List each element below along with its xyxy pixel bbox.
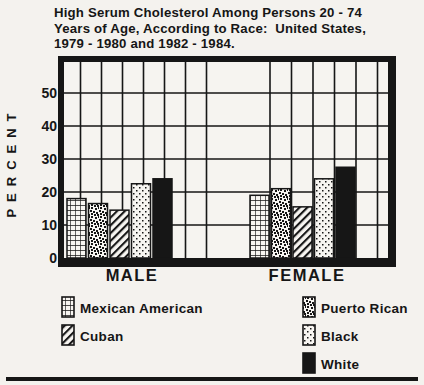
- bar-male-mexican-american: [67, 199, 86, 258]
- y-tick-label-0: 0: [49, 250, 57, 266]
- legend-label: Mexican American: [80, 301, 203, 316]
- legend-swatch-diagonal-icon: [62, 325, 74, 345]
- bar-female-white: [336, 167, 355, 258]
- bar-female-black: [315, 179, 334, 258]
- bar-male-puerto-rican: [89, 204, 108, 258]
- category-label-male: MALE: [106, 266, 159, 284]
- bar-male-black: [132, 184, 151, 258]
- y-tick-label-50: 50: [41, 85, 57, 101]
- bar-chart: 01020304050 PERCENT MALEFEMALE Mexican A…: [0, 0, 424, 385]
- frame-left: [58, 56, 64, 267]
- bar-female-cuban: [293, 207, 312, 258]
- y-axis-title: PERCENT: [4, 106, 19, 217]
- y-axis-ticks: 01020304050: [41, 85, 57, 266]
- y-tick-label-10: 10: [41, 217, 57, 233]
- legend-swatch-speckle-icon: [303, 297, 315, 317]
- y-tick-label-30: 30: [41, 151, 57, 167]
- legend-swatch-dots-icon: [303, 325, 315, 345]
- legend-item-puerto-rican: Puerto Rican: [303, 297, 408, 317]
- legend-label: Puerto Rican: [321, 301, 408, 316]
- y-tick-label-40: 40: [41, 118, 57, 134]
- legend-label: Black: [321, 329, 359, 344]
- legend-label: White: [321, 357, 359, 372]
- legend-swatch-solid-icon: [303, 353, 315, 373]
- bar-female-mexican-american: [250, 195, 269, 258]
- x-axis-category-labels: MALEFEMALE: [106, 266, 346, 284]
- bottom-rule: [6, 377, 418, 381]
- bar-female-puerto-rican: [272, 189, 291, 258]
- legend-item-white: White: [303, 353, 359, 373]
- category-label-female: FEMALE: [269, 266, 346, 284]
- legend-item-cuban: Cuban: [62, 325, 124, 345]
- chart-legend: Mexican AmericanCubanPuerto RicanBlackWh…: [62, 297, 408, 373]
- legend-item-black: Black: [303, 325, 359, 345]
- legend-item-mexican-american: Mexican American: [62, 297, 203, 317]
- y-tick-label-20: 20: [41, 184, 57, 200]
- frame-right: [388, 56, 396, 267]
- legend-label: Cuban: [80, 329, 124, 344]
- bar-male-cuban: [110, 210, 129, 258]
- frame-top: [58, 56, 396, 62]
- legend-swatch-grid-icon: [62, 297, 74, 317]
- figure-page: High Serum Cholesterol Among Persons 20 …: [0, 0, 424, 385]
- bar-male-white: [153, 179, 172, 258]
